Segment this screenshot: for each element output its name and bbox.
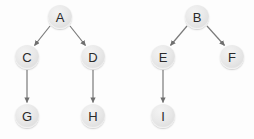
tree-node-i-label: I — [161, 110, 165, 123]
edge-a-d — [70, 26, 86, 46]
tree-node-b-label: B — [193, 11, 202, 24]
tree-node-f-label: F — [228, 51, 236, 64]
tree-node-e-label: E — [159, 51, 168, 64]
edge-a-c — [35, 26, 51, 46]
tree-node-d[interactable]: D — [81, 45, 105, 69]
tree-node-g-label: G — [22, 110, 32, 123]
tree-node-c-label: C — [22, 51, 31, 64]
tree-node-b[interactable]: B — [185, 5, 209, 29]
tree-node-d-label: D — [88, 51, 97, 64]
edge-b-e — [171, 26, 188, 46]
tree-node-h-label: H — [88, 110, 97, 123]
tree-node-a[interactable]: A — [48, 5, 72, 29]
edge-b-f — [207, 26, 225, 46]
tree-node-f[interactable]: F — [220, 45, 244, 69]
tree-diagram-canvas: A C D G H B E F I — [0, 0, 254, 139]
tree-node-i[interactable]: I — [151, 104, 175, 128]
tree-node-c[interactable]: C — [15, 45, 39, 69]
tree-node-h[interactable]: H — [81, 104, 105, 128]
tree-node-g[interactable]: G — [15, 104, 39, 128]
tree-node-e[interactable]: E — [151, 45, 175, 69]
tree-node-a-label: A — [56, 11, 65, 24]
